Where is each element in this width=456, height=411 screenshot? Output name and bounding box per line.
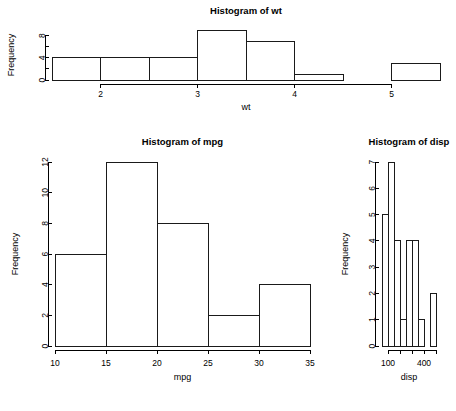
histogram-panel-mpg: Histogram of mpg024681012Frequency101520…: [0, 130, 330, 411]
histogram-bar: [295, 74, 344, 80]
y-tick-label: 4: [367, 238, 377, 243]
y-tick-label: 8: [40, 221, 50, 226]
x-tick-label: 2: [98, 89, 103, 99]
histogram-bar: [406, 241, 412, 346]
y-tick-label: 4: [37, 55, 47, 60]
chart-title-disp: Histogram of disp: [369, 136, 450, 147]
y-axis-title-wt: Frequency: [6, 33, 16, 76]
y-axis-mpg: 024681012: [40, 157, 52, 348]
y-tick-label: 0: [40, 343, 50, 348]
chart-title-wt: Histogram of wt: [210, 5, 283, 16]
y-axis-disp: 01234567: [367, 159, 379, 348]
histogram-bar: [382, 215, 388, 346]
histogram-bar: [412, 241, 418, 346]
y-tick-label: 4: [40, 282, 50, 287]
x-tick-label: 4: [292, 89, 297, 99]
x-axis-title-disp: disp: [401, 372, 418, 382]
y-tick-label: 0: [367, 343, 377, 348]
bars-wt: [52, 30, 440, 80]
x-tick-label: 30: [254, 358, 264, 368]
x-tick-label: 10: [50, 358, 60, 368]
histogram-bar: [101, 58, 150, 80]
y-tick-label: 8: [37, 33, 47, 38]
x-tick-label: 35: [305, 358, 315, 368]
histogram-bar: [400, 320, 406, 346]
x-tick-label: 15: [101, 358, 111, 368]
y-tick-label: 1: [367, 317, 377, 322]
y-tick-label: 2: [367, 291, 377, 296]
x-tick-label: 400: [417, 358, 431, 368]
y-tick-label: 6: [367, 186, 377, 191]
x-axis-disp: 100400: [381, 350, 436, 368]
histogram-bar: [149, 58, 198, 80]
histogram-bar: [208, 315, 259, 346]
histogram-bar: [430, 293, 436, 346]
x-tick-label: 25: [203, 358, 213, 368]
graphics-canvas: Histogram of wt048Frequency2345wt Histog…: [0, 0, 456, 411]
y-tick-label: 3: [367, 265, 377, 270]
histogram-bar: [52, 58, 101, 80]
histogram-bar: [246, 41, 295, 80]
y-tick-label: 10: [40, 188, 50, 198]
histogram-bar: [198, 30, 247, 80]
y-axis-wt: 048: [37, 33, 49, 82]
histogram-svg-disp: Histogram of disp01234567Frequency100400…: [330, 130, 456, 411]
x-axis-title-wt: wt: [241, 102, 251, 112]
x-axis-mpg: 101520253035: [50, 350, 315, 368]
histogram-bar: [106, 162, 157, 346]
histogram-bar: [259, 285, 310, 346]
histogram-panel-disp: Histogram of disp01234567Frequency100400…: [330, 130, 456, 411]
histogram-bar: [394, 241, 400, 346]
histogram-svg-mpg: Histogram of mpg024681012Frequency101520…: [0, 130, 330, 411]
chart-title-mpg: Histogram of mpg: [142, 136, 223, 147]
y-tick-label: 7: [367, 159, 377, 164]
x-tick-label: 3: [195, 89, 200, 99]
histogram-bar: [55, 254, 106, 346]
y-axis-title-mpg: Frequency: [10, 232, 20, 275]
histogram-bar: [418, 320, 424, 346]
x-tick-label: 5: [389, 89, 394, 99]
y-tick-label: 12: [40, 157, 50, 167]
histogram-svg-wt: Histogram of wt048Frequency2345wt: [0, 0, 456, 128]
y-tick-label: 2: [40, 313, 50, 318]
y-tick-label: 6: [40, 251, 50, 256]
x-axis-title-mpg: mpg: [174, 372, 192, 382]
histogram-bar: [388, 162, 394, 346]
histogram-bar: [157, 223, 208, 346]
x-tick-label: 100: [381, 358, 395, 368]
x-tick-label: 20: [152, 358, 162, 368]
histogram-bar: [392, 63, 441, 80]
bars-disp: [382, 162, 436, 346]
y-axis-title-disp: Frequency: [340, 232, 350, 275]
y-tick-label: 0: [37, 77, 47, 82]
histogram-panel-wt: Histogram of wt048Frequency2345wt: [0, 0, 456, 128]
bars-mpg: [55, 162, 310, 346]
x-axis-wt: 2345: [98, 84, 394, 99]
y-tick-label: 5: [367, 212, 377, 217]
